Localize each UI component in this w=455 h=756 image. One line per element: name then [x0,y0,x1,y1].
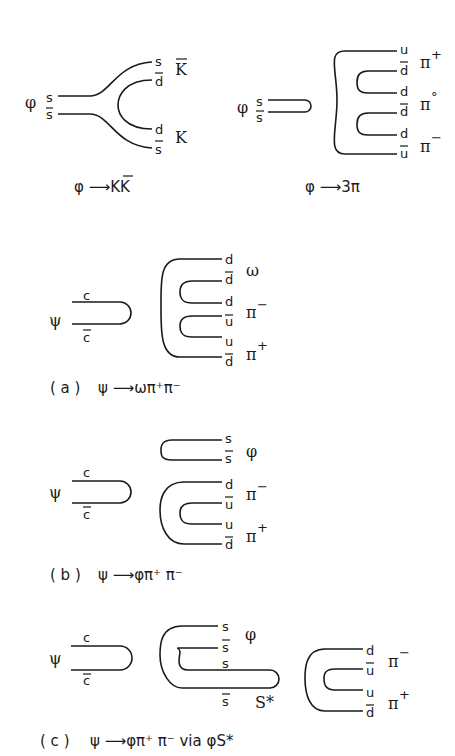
meson-pi-plus: π [246,345,257,364]
meson-pi-minus: π [246,485,257,504]
diagram-c-psi-via-phi-sstar: ψ c c s s s φ s S* d u π − u d π + ( c )… [40,619,410,750]
phi-symbol: φ [237,98,248,117]
label-b: ( b ) [50,566,81,584]
quark-ubar: u [225,497,233,512]
quark-cbar: c [83,673,90,688]
meson-pi-plus: π [388,694,399,713]
caption-b: ψ ⟶φπ⁺ π⁻ [98,566,183,584]
charge-plus: + [431,47,442,62]
meson-pi-plus: π [420,53,431,72]
quark-s: s [256,94,263,109]
caption-a: ψ ⟶ωπ⁺π⁻ [98,379,181,397]
quark-u: u [366,685,374,700]
quark-s: s [225,431,232,446]
meson-pi-plus: π [246,527,257,546]
diagram-b-psi-to-phi-pi-pi: ψ c c s s φ d u π − u d π + ( b ) ψ ⟶φπ⁺… [49,431,268,584]
quark-sbar: s [155,142,162,157]
meson-phi: φ [245,625,256,644]
quark-s: s [46,90,53,105]
meson-phi: φ [246,442,257,461]
quark-c: c [83,288,90,303]
quark-cbar: c [83,507,90,522]
quark-d: d [225,477,233,492]
label-a: ( a ) [50,379,80,397]
quark-c: c [83,630,90,645]
psi-symbol: ψ [49,483,62,502]
quark-s: s [155,54,162,69]
quark-sbar: s [222,694,229,709]
quark-u: u [400,42,408,57]
phi-symbol: φ [25,93,36,112]
quark-dbar: d [366,705,374,720]
charge-plus: + [257,338,268,353]
quark-sbar: s [256,110,263,125]
meson-omega: ω [246,261,259,280]
quark-dbar: d [400,104,408,119]
charge-plus: + [399,687,410,702]
quark-sbar: s [46,107,53,122]
charge-minus: − [431,130,442,145]
diagram-a-psi-to-omega-pi-pi: ψ c c d d ω d u π − u d π + ( a ) ψ ⟶ωπ⁺… [49,252,268,397]
quark-u: u [225,517,233,532]
meson-pi-minus: π [246,303,257,322]
meson-k: K [175,128,188,147]
quark-dbar: d [225,272,233,287]
quark-d: d [400,84,408,99]
quark-dbar: d [400,63,408,78]
quark-flow-diagrams: φ s s s d K d s K φ ⟶KK φ s s u d π + d … [0,0,455,756]
meson-pi-minus: π [420,137,431,156]
quark-dbar: d [225,537,233,552]
quark-dbar: d [225,354,233,369]
diagram-phi-to-kkbar: φ s s s d K d s K φ ⟶KK [25,54,188,196]
quark-d: d [400,126,408,141]
quark-d: d [366,643,374,658]
quark-ubar: u [366,663,374,678]
meson-pi-minus: π [388,652,399,671]
charge-plus: + [257,520,268,535]
label-c: ( c ) [40,732,70,750]
psi-symbol: ψ [49,649,62,668]
charge-minus: − [257,479,268,494]
charge-zero: ° [431,89,438,104]
quark-ubar: u [400,146,408,161]
quark-sbar: s [225,451,232,466]
caption-phi-3pi: φ ⟶3π [305,178,360,196]
caption-c: ψ ⟶φπ⁺ π⁻ via φS* [90,732,234,750]
quark-c: c [83,465,90,480]
quark-cbar: c [83,330,90,345]
charge-minus: − [257,297,268,312]
meson-s-star: S* [255,693,274,712]
quark-d: d [225,294,233,309]
quark-d: d [155,122,163,137]
quark-s: s [222,656,229,671]
meson-pi-zero: π [420,95,431,114]
quark-dbar: d [155,74,163,89]
quark-s: s [222,619,229,634]
caption-phi-kkbar: φ ⟶KK [74,178,131,196]
diagram-phi-to-3pi: φ s s u d π + d d π ° d u π − φ ⟶3π [237,42,442,196]
meson-kbar: K [175,60,188,79]
quark-ubar: u [225,314,233,329]
quark-sbar: s [222,640,229,655]
quark-u: u [225,334,233,349]
charge-minus: − [399,645,410,660]
psi-symbol: ψ [49,311,62,330]
quark-d: d [225,252,233,267]
